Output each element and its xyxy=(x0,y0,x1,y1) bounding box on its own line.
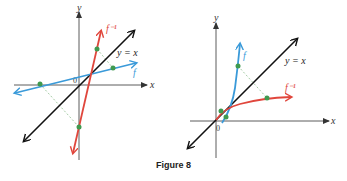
f-label: f xyxy=(133,67,137,78)
point xyxy=(219,109,224,114)
f-inverse-label: f⁻¹ xyxy=(285,82,296,93)
point xyxy=(111,66,116,71)
left-graph: x y 0 y = x f f⁻¹ xyxy=(14,2,155,160)
point xyxy=(265,96,270,101)
figure-canvas: x y 0 y = x f f⁻¹ x y 0 y = x f f⁻¹ xyxy=(0,0,347,181)
identity-label: y = x xyxy=(116,47,138,58)
x-axis-label: x xyxy=(330,115,336,126)
right-graph: x y 0 y = x f f⁻¹ xyxy=(188,12,336,158)
point xyxy=(236,64,241,69)
x-axis-label: x xyxy=(149,79,155,90)
point xyxy=(224,115,229,120)
y-axis-label: y xyxy=(213,12,219,23)
origin-label: 0 xyxy=(216,124,220,133)
point xyxy=(77,125,82,130)
f-label: f xyxy=(243,50,247,61)
identity-label: y = x xyxy=(284,55,306,66)
point xyxy=(38,82,43,87)
point xyxy=(95,47,100,52)
figure-caption: Figure 8 xyxy=(0,160,347,170)
f-inverse-label: f⁻¹ xyxy=(106,23,117,34)
y-axis-label: y xyxy=(76,2,82,13)
